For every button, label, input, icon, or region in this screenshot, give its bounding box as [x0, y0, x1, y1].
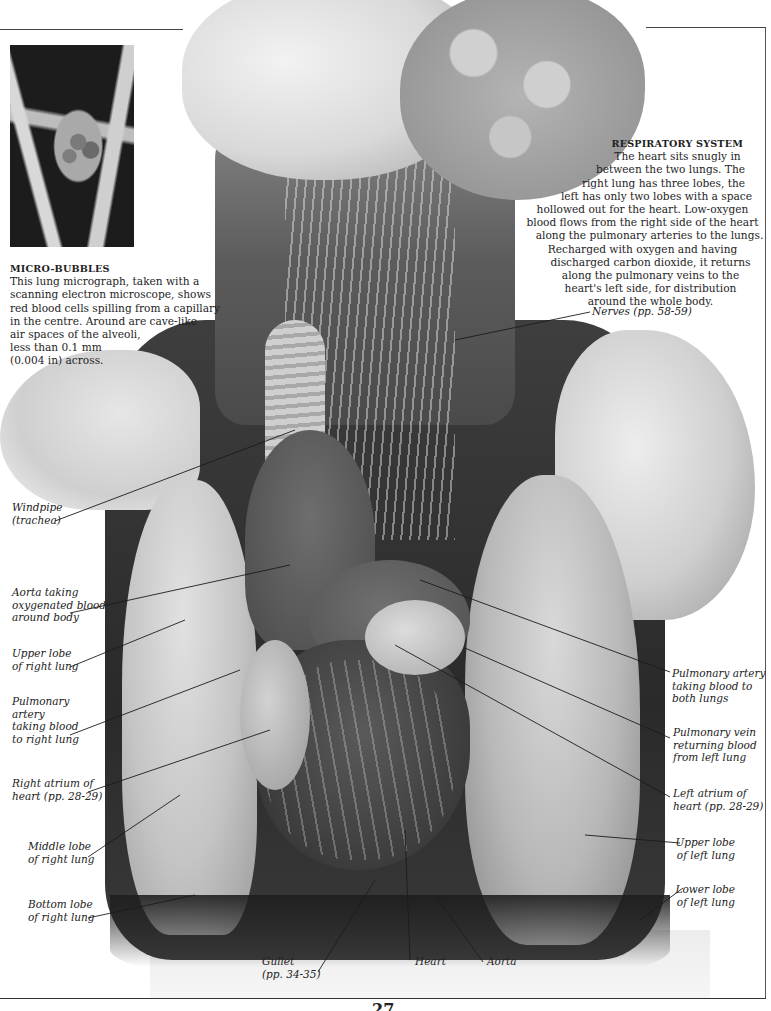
neck-dissection: [215, 95, 515, 425]
caption-line: discharged carbon dioxide, it returns: [520, 256, 765, 269]
pulmonary-trunk: [310, 560, 470, 680]
leader-middle-lobe-right: [88, 795, 180, 857]
label-upper-lobe-right: Upper lobe of right lung: [12, 647, 79, 672]
respiratory-system-caption: RESPIRATORY SYSTEM The heart sits snugly…: [520, 137, 765, 309]
caption-line: The heart sits snugly in: [520, 150, 765, 163]
label-aorta: Aorta: [487, 955, 516, 968]
left-atrium-organ: [365, 600, 465, 675]
page-number: 27: [372, 1002, 394, 1011]
right-lung: [122, 480, 257, 935]
leader-bottom-lobe-right: [88, 895, 195, 918]
leader-pulmonary-vein: [465, 648, 670, 738]
label-windpipe: Windpipe (trachea): [12, 501, 62, 526]
neck-nerves: [285, 100, 455, 540]
label-heart: Heart: [415, 955, 446, 968]
caption-line: left has only two lobes with a space: [520, 190, 765, 203]
leader-pulmonary-artery-both: [420, 580, 670, 672]
right-shoulder: [0, 350, 200, 510]
left-lung: [465, 475, 640, 945]
micro-bubbles-caption: MICRO-BUBBLES This lung micrograph, take…: [10, 262, 195, 368]
caption-line: Recharged with oxygen and having: [520, 243, 765, 256]
caption-line: air spaces of the alveoli,: [10, 328, 195, 341]
caption-line: along the pulmonary arteries to the lung…: [520, 229, 765, 242]
leader-windpipe: [55, 430, 295, 521]
label-right-atrium: Right atrium of heart (pp. 28-29): [12, 777, 102, 802]
label-aorta-body: Aorta taking oxygenated blood around bod…: [12, 586, 106, 624]
heart-organ: [255, 640, 470, 870]
label-gullet: Gullet (pp. 34-35): [262, 955, 321, 980]
leader-right-atrium: [88, 730, 270, 792]
leader-heart: [405, 830, 410, 960]
label-middle-lobe-right: Middle lobe of right lung: [28, 840, 95, 865]
caption-heading: RESPIRATORY SYSTEM: [520, 137, 765, 150]
caption-heading: MICRO-BUBBLES: [10, 262, 195, 275]
caption-line: red blood cells spilling from a capillar…: [10, 302, 195, 315]
caption-line: This lung micrograph, taken with a: [10, 275, 195, 288]
caption-line: heart's left side, for distribution: [520, 282, 765, 295]
label-bottom-lobe-right: Bottom lobe of right lung: [28, 898, 95, 923]
leader-aorta: [435, 895, 483, 962]
label-pulmonary-vein: Pulmonary vein returning blood from left…: [673, 726, 757, 764]
right-rule: [765, 27, 766, 999]
label-pulmonary-artery-both: Pulmonary artery taking blood to both lu…: [672, 667, 765, 705]
coronary-vessels: [265, 660, 455, 860]
label-upper-lobe-left: Upper lobe of left lung: [665, 836, 735, 861]
right-atrium-organ: [240, 640, 310, 790]
trachea: [265, 320, 325, 490]
aortic-arch: [245, 430, 375, 650]
label-lower-lobe-left: Lower lobe of left lung: [665, 883, 735, 908]
left-shoulder: [555, 330, 755, 620]
base-shadow: [110, 895, 670, 985]
leader-upper-lobe-right: [70, 620, 185, 667]
head: [182, 0, 482, 180]
caption-line: less than 0.1 mm: [10, 341, 195, 354]
top-rule-right: [646, 27, 766, 28]
caption-line: hollowed out for the heart. Low-oxygen: [520, 203, 765, 216]
book-page: MICRO-BUBBLES This lung micrograph, take…: [0, 0, 771, 1011]
label-nerves: Nerves (pp. 58-59): [592, 305, 692, 318]
leader-gullet: [318, 880, 375, 972]
caption-line: between the two lungs. The: [520, 163, 765, 176]
label-pulmonary-artery-right: Pulmonary artery taking blood to right l…: [12, 695, 79, 745]
lung-micrograph-image: [10, 45, 134, 247]
top-rule-left: [0, 29, 183, 30]
bottom-rule: [0, 998, 766, 999]
caption-line: right lung has three lobes, the: [520, 177, 765, 190]
caption-line: in the centre. Around are cave-like: [10, 315, 195, 328]
caption-line: along the pulmonary veins to the: [520, 269, 765, 282]
label-left-atrium: Left atrium of heart (pp. 28-29): [673, 787, 763, 812]
caption-line: scanning electron microscope, shows: [10, 288, 195, 301]
leader-nerves: [455, 312, 590, 340]
caption-line: (0.004 in) across.: [10, 354, 195, 367]
chest-cavity: [105, 320, 665, 960]
leader-pulmonary-artery-right: [70, 670, 240, 735]
leader-left-atrium: [395, 645, 670, 797]
caption-line: blood flows from the right side of the h…: [520, 216, 765, 229]
